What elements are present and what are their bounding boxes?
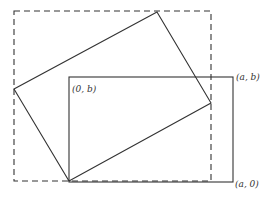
label-a-0: (a, 0)	[235, 179, 259, 189]
rotated-rectangle	[14, 12, 211, 181]
label-0-b: (0, b)	[72, 84, 97, 94]
label-a-b: (a, b)	[236, 72, 260, 82]
diagram-canvas: (0, b) (a, b) (a, 0)	[0, 0, 270, 198]
